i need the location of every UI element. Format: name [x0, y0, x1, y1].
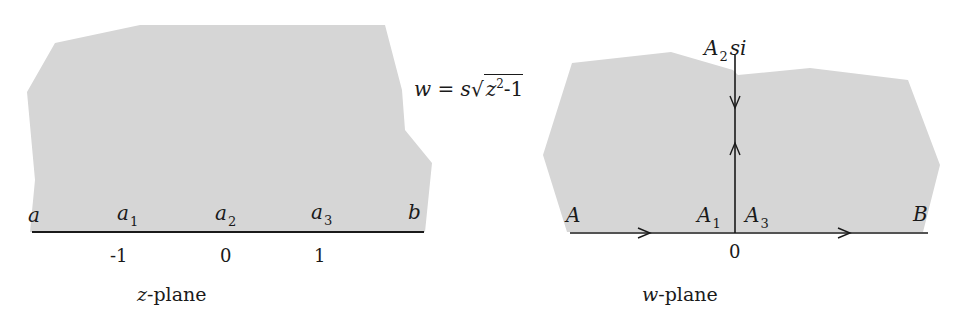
z-plane-upper-half-region	[27, 25, 432, 232]
diagram-canvas	[0, 0, 956, 326]
w-tick-zero: 0	[729, 243, 740, 261]
w-point-a2-si: A2si	[704, 38, 746, 58]
z-point-a2: a2	[215, 203, 236, 223]
z-point-a: a	[28, 205, 40, 225]
conformal-map-diagram: a a1 a2 a3 b -1 0 1 z-plane w = s√z2-1 A…	[0, 0, 956, 326]
w-point-A3: A3	[745, 205, 769, 225]
w-point-B: B	[913, 204, 928, 224]
mapping-formula: w = s√z2-1	[414, 79, 523, 99]
z-tick-one: 1	[314, 247, 325, 265]
w-plane-caption: w-plane	[642, 285, 718, 304]
w-plane-upper-half-region	[543, 52, 940, 232]
z-point-b: b	[408, 202, 421, 222]
z-tick-minus-one: -1	[110, 247, 128, 265]
w-point-A1: A1	[697, 205, 721, 225]
z-point-a3: a3	[311, 202, 332, 222]
z-plane-caption: z-plane	[137, 285, 206, 304]
w-point-A: A	[566, 205, 580, 225]
z-tick-zero: 0	[220, 247, 231, 265]
z-point-a1: a1	[117, 203, 138, 223]
